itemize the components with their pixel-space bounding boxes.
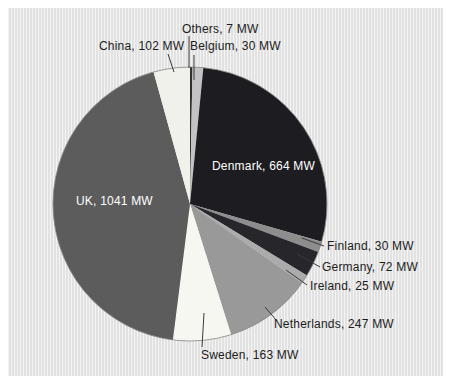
- sweden-label: Sweden, 163 MW: [201, 349, 299, 362]
- denmark-label: Denmark, 664 MW: [212, 160, 315, 173]
- uk-label: UK, 1041 MW: [76, 195, 153, 208]
- ireland-label: Ireland, 25 MW: [310, 280, 394, 293]
- germany-label: Germany, 72 MW: [322, 261, 418, 274]
- netherlands-label: Netherlands, 247 MW: [274, 318, 394, 331]
- china-label: China, 102 MW: [99, 40, 184, 53]
- finland-label: Finland, 30 MW: [327, 240, 414, 253]
- belgium-label: Belgium, 30 MW: [190, 40, 281, 53]
- others-label: Others, 7 MW: [182, 23, 258, 36]
- figure-page: Others, 7 MW Belgium, 30 MW China, 102 M…: [0, 0, 449, 383]
